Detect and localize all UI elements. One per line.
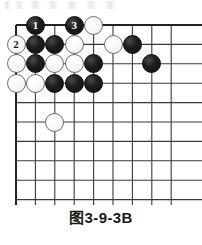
white-stone[interactable] [7,54,26,73]
white-stone[interactable] [7,74,26,93]
white-stone[interactable]: 2 [7,35,26,54]
go-board[interactable]: 132 [0,0,202,205]
black-stone[interactable]: 3 [65,16,84,35]
white-stone[interactable] [104,35,123,54]
black-stone[interactable]: 1 [26,16,45,35]
black-stone[interactable] [45,74,64,93]
white-stone[interactable] [65,54,84,73]
move-number-label: 1 [27,17,44,34]
white-stone[interactable] [65,35,84,54]
white-stone[interactable] [84,16,103,35]
move-number-label: 2 [8,36,25,53]
black-stone[interactable] [123,35,142,54]
white-stone[interactable] [26,74,45,93]
black-stone[interactable] [65,74,84,93]
black-stone[interactable] [26,35,45,54]
move-number-label: 3 [66,17,83,34]
black-stone[interactable] [84,74,103,93]
figure-caption: 图3-9-3B [0,206,202,227]
white-stone[interactable] [45,113,64,132]
